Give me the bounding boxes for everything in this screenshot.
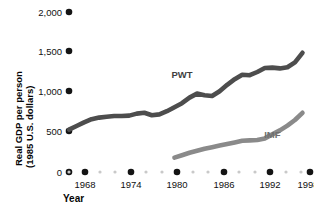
y-tick-label-0: 0 xyxy=(57,167,62,178)
x-minor-dot-1984 xyxy=(206,170,209,173)
y-tick-label-2000: 2,000 xyxy=(38,7,62,18)
x-tick-label-1968: 1968 xyxy=(74,179,95,190)
x-tick-dot-1992 xyxy=(267,169,274,176)
series-label-imf: IMF xyxy=(264,129,281,140)
x-tick-dot-1986 xyxy=(221,169,228,176)
x-minor-dot-1988 xyxy=(237,170,240,173)
x-tick-dot-1974 xyxy=(128,169,135,176)
x-tick-label-1974: 1974 xyxy=(120,179,141,190)
x-minor-dot-1978 xyxy=(160,170,163,173)
x-minor-dot-1970 xyxy=(98,170,101,173)
y-tick-label-1000: 1,000 xyxy=(38,86,62,97)
x-tick-label-1992: 1992 xyxy=(259,179,280,190)
x-minor-dot-1976 xyxy=(144,170,147,173)
chart-svg: 2,000 1,500 1,000 500 0 Real GDP per per… xyxy=(0,0,314,209)
x-minor-dot-1994 xyxy=(284,170,287,173)
x-tick-label-1986: 1986 xyxy=(213,179,234,190)
x-minor-dot-1982 xyxy=(191,170,194,173)
x-tick-dot-1998 xyxy=(307,169,314,176)
x-tick-label-1980: 1980 xyxy=(166,179,187,190)
y-axis-title-line2: (1985 U.S. dollars) xyxy=(24,86,35,168)
y-tick-label-1500: 1,500 xyxy=(38,46,62,57)
chart-background xyxy=(0,0,314,209)
y-tick-dot-1500 xyxy=(66,48,73,55)
x-minor-dot-1966 xyxy=(67,170,70,173)
x-tick-label-1998: 1998 xyxy=(297,179,314,190)
x-minor-dot-1990 xyxy=(253,170,256,173)
series-label-pwt: PWT xyxy=(171,69,192,80)
y-tick-dot-1000 xyxy=(66,88,73,95)
y-tick-dot-2000 xyxy=(66,9,73,16)
x-minor-dot-1972 xyxy=(113,170,116,173)
y-tick-label-500: 500 xyxy=(46,126,62,137)
gdp-per-person-line-chart: 2,000 1,500 1,000 500 0 Real GDP per per… xyxy=(0,0,314,209)
x-axis-title: Year xyxy=(63,193,84,204)
x-tick-dot-1968 xyxy=(82,169,89,176)
x-minor-dot-1996 xyxy=(299,170,302,173)
y-axis-title-line1: Real GDP per person xyxy=(13,71,24,166)
x-tick-dot-1980 xyxy=(174,169,181,176)
